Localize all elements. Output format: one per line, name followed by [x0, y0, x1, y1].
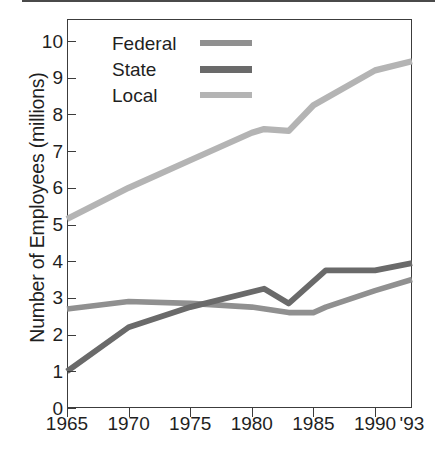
y-tick-label: 6 [35, 178, 63, 197]
legend-item-federal: Federal [112, 30, 272, 56]
y-tick-mark [67, 408, 76, 409]
scan-edge-artifact [0, 0, 435, 5]
legend-swatch-federal [200, 40, 252, 46]
y-tick-mark [67, 188, 76, 189]
y-tick-mark [67, 298, 76, 299]
y-tick-label: 1 [35, 362, 63, 381]
y-tick-label: 4 [35, 252, 63, 271]
series-line-state [67, 263, 412, 371]
y-tick-mark [67, 41, 76, 42]
y-tick-label: 9 [35, 68, 63, 87]
y-tick-label: 8 [35, 105, 63, 124]
x-tick-label: 1975 [160, 414, 220, 434]
y-tick-label: 7 [35, 142, 63, 161]
x-tick-mark [375, 408, 376, 417]
legend-item-state: State [112, 56, 272, 82]
y-tick-label: 10 [35, 32, 63, 51]
y-tick-mark [67, 151, 76, 152]
y-tick-mark [67, 261, 76, 262]
legend-item-local: Local [112, 82, 272, 108]
x-tick-mark [313, 408, 314, 417]
x-tick-mark [252, 408, 253, 417]
legend-label-state: State [112, 60, 200, 79]
y-tick-label: 2 [35, 325, 63, 344]
x-tick-mark [129, 408, 130, 417]
y-tick-label: 3 [35, 288, 63, 307]
scan-edge-gap [0, 0, 22, 5]
x-tick-label: 1965 [37, 414, 97, 434]
y-axis-ticks: 012345678910 [33, 0, 63, 452]
legend-swatch-local [200, 92, 252, 98]
chart-legend: Federal State Local [112, 30, 272, 108]
x-tick-label: 1970 [99, 414, 159, 434]
employment-line-chart: Number of Employees (millions) 012345678… [0, 0, 435, 452]
x-tick-label: 1980 [222, 414, 282, 434]
y-tick-label: 5 [35, 215, 63, 234]
x-tick-mark [67, 408, 68, 417]
y-tick-mark [67, 335, 76, 336]
x-tick-label: 1985 [283, 414, 343, 434]
x-tick-label: '93 [382, 414, 435, 434]
legend-label-federal: Federal [112, 34, 200, 53]
x-tick-mark [190, 408, 191, 417]
y-tick-mark [67, 371, 76, 372]
y-tick-mark [67, 78, 76, 79]
y-tick-mark [67, 225, 76, 226]
legend-label-local: Local [112, 86, 200, 105]
legend-swatch-state [200, 66, 252, 73]
y-tick-mark [67, 114, 76, 115]
